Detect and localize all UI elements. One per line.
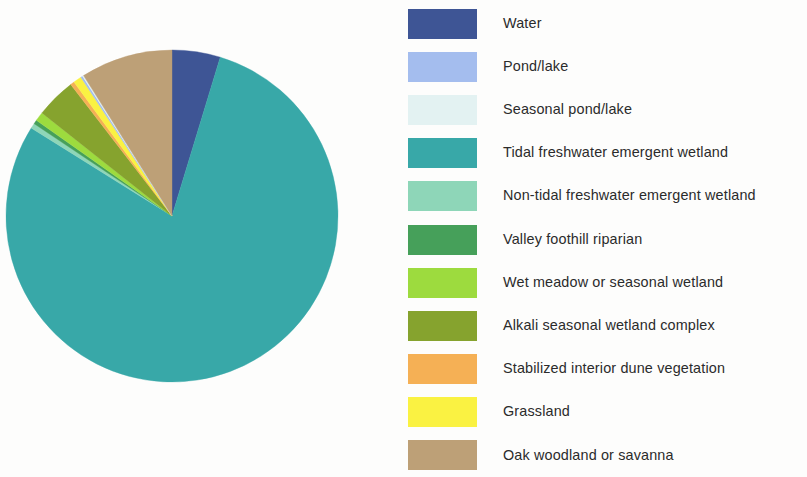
chart-legend: WaterPond/lakeSeasonal pond/lakeTidal fr… [406, 0, 807, 477]
legend-item[interactable]: Stabilized interior dune vegetation [406, 348, 807, 391]
legend-item[interactable]: Water [406, 2, 807, 45]
legend-color-swatch [408, 354, 477, 384]
legend-color-swatch [408, 225, 477, 255]
legend-item-label: Water [503, 16, 542, 32]
legend-color-swatch [408, 138, 477, 168]
legend-item-label: Non-tidal freshwater emergent wetland [503, 188, 756, 204]
legend-color-swatch [408, 268, 477, 298]
legend-item[interactable]: Non-tidal freshwater emergent wetland [406, 175, 807, 218]
legend-item-label: Seasonal pond/lake [503, 102, 632, 118]
legend-color-swatch [408, 397, 477, 427]
legend-item[interactable]: Wet meadow or seasonal wetland [406, 261, 807, 304]
legend-item-label: Oak woodland or savanna [503, 448, 674, 464]
legend-color-swatch [408, 52, 477, 82]
legend-item[interactable]: Alkali seasonal wetland complex [406, 304, 807, 347]
legend-item-label: Pond/lake [503, 59, 568, 75]
chart-page: WaterPond/lakeSeasonal pond/lakeTidal fr… [0, 0, 807, 477]
legend-item-label: Wet meadow or seasonal wetland [503, 275, 723, 291]
legend-item[interactable]: Seasonal pond/lake [406, 88, 807, 131]
legend-color-swatch [408, 9, 477, 39]
legend-item[interactable]: Oak woodland or savanna [406, 434, 807, 477]
legend-item-label: Stabilized interior dune vegetation [503, 361, 725, 377]
legend-item-label: Grassland [503, 404, 570, 420]
legend-color-swatch [408, 95, 477, 125]
legend-item-label: Valley foothill riparian [503, 232, 642, 248]
pie-slices-group [6, 50, 338, 382]
legend-color-swatch [408, 311, 477, 341]
pie-chart-svg [0, 0, 400, 477]
legend-color-swatch [408, 440, 477, 470]
legend-item[interactable]: Valley foothill riparian [406, 218, 807, 261]
pie-chart-region [0, 0, 400, 477]
legend-item[interactable]: Pond/lake [406, 45, 807, 88]
legend-item[interactable]: Grassland [406, 391, 807, 434]
legend-item-label: Tidal freshwater emergent wetland [503, 145, 728, 161]
legend-item-label: Alkali seasonal wetland complex [503, 318, 715, 334]
legend-color-swatch [408, 181, 477, 211]
legend-item[interactable]: Tidal freshwater emergent wetland [406, 132, 807, 175]
